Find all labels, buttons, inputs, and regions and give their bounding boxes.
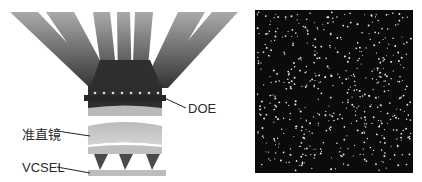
doe-element — [84, 86, 166, 116]
doe-label: DOE — [188, 101, 216, 116]
collimator-lens — [88, 122, 162, 154]
diffracted-beams — [10, 12, 238, 88]
projector-illustration — [0, 0, 250, 182]
dot-pattern-panel — [255, 10, 413, 173]
dot-pattern — [255, 10, 413, 173]
vcsel-substrate — [88, 170, 166, 176]
vcsel-emitters — [94, 154, 160, 170]
collimator-label: 准直镜 — [22, 124, 61, 143]
vcsel-label: VCSEL — [22, 160, 65, 175]
projector-diagram: DOE 准直镜 VCSEL — [0, 0, 250, 182]
